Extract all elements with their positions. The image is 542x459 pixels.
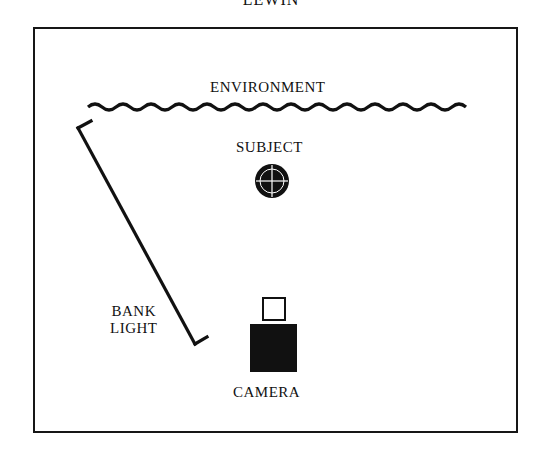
subject-target-icon: [255, 164, 289, 198]
camera-label: CAMERA: [233, 384, 300, 401]
environment-label: ENVIRONMENT: [210, 79, 326, 96]
camera-icon: [250, 298, 297, 372]
bank-light-label: BANK LIGHT: [110, 303, 158, 337]
bank-light-label-line2: LIGHT: [110, 320, 158, 337]
environment-wave-icon: [88, 104, 466, 110]
subject-label: SUBJECT: [236, 139, 303, 156]
bank-light-label-line1: BANK: [110, 303, 158, 320]
